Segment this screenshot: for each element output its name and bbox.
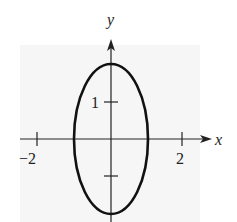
x-tick-label-2: 2 bbox=[176, 150, 184, 167]
y-axis-label: y bbox=[105, 11, 115, 29]
x-axis-label: x bbox=[214, 131, 222, 148]
plot-canvas: y x −2 2 1 bbox=[0, 0, 237, 222]
x-tick-label-neg2: −2 bbox=[19, 150, 36, 167]
y-tick-label-1: 1 bbox=[91, 94, 99, 111]
ellipse-graph: y x −2 2 1 bbox=[0, 0, 237, 222]
plot-background bbox=[20, 45, 200, 222]
